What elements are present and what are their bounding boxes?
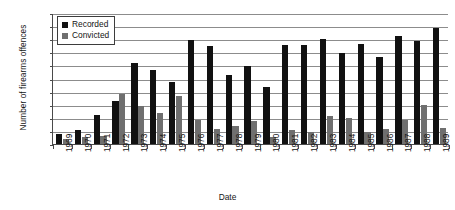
- x-tick-label-1982: 1982: [311, 134, 319, 152]
- bar-group: [147, 14, 166, 144]
- bar-group: [223, 14, 242, 144]
- x-tick-mark: [91, 145, 92, 149]
- x-tick-label-1977: 1977: [217, 134, 225, 152]
- x-tick-mark: [298, 145, 299, 149]
- x-tick-label-1984: 1984: [349, 134, 357, 152]
- x-tick-mark: [185, 145, 186, 149]
- legend-label: Convicted: [72, 31, 109, 39]
- bar-recorded-1987: [395, 36, 401, 144]
- chart-legend: RecordedConvicted: [57, 16, 115, 45]
- bar-group: [204, 14, 223, 144]
- bar-group: [298, 14, 317, 144]
- x-tick-mark: [449, 145, 450, 149]
- x-tick-mark: [392, 145, 393, 149]
- x-tick-mark: [110, 145, 111, 149]
- bar-recorded-1969: [56, 134, 62, 144]
- x-tick-label-1975: 1975: [179, 134, 187, 152]
- bar-group: [260, 14, 279, 144]
- x-tick-mark: [355, 145, 356, 149]
- x-tick-mark: [374, 145, 375, 149]
- bar-recorded-1972: [112, 101, 118, 144]
- x-tick-label-1980: 1980: [273, 134, 281, 152]
- bar-recorded-1985: [358, 44, 364, 144]
- convicted-swatch-icon: [62, 33, 68, 39]
- x-tick-mark: [223, 145, 224, 149]
- x-tick-label-1978: 1978: [236, 134, 244, 152]
- bar-group: [128, 14, 147, 144]
- bar-recorded-1974: [150, 70, 156, 144]
- bar-group: [185, 14, 204, 144]
- bar-group: [166, 14, 185, 144]
- bar-group: [374, 14, 393, 144]
- bar-recorded-1973: [131, 63, 137, 144]
- bar-group: [242, 14, 261, 144]
- x-tick-label-1987: 1987: [405, 134, 413, 152]
- x-tick-label-1974: 1974: [160, 134, 168, 152]
- x-tick-mark: [166, 145, 167, 149]
- bar-recorded-1976: [188, 40, 194, 144]
- x-tick-mark: [128, 145, 129, 149]
- bar-recorded-1986: [376, 57, 382, 144]
- x-tick-label-1972: 1972: [123, 134, 131, 152]
- x-tick-mark: [317, 145, 318, 149]
- x-tick-label-1988: 1988: [424, 134, 432, 152]
- x-tick-label-1985: 1985: [368, 134, 376, 152]
- x-tick-mark: [204, 145, 205, 149]
- legend-entry-convicted: Convicted: [62, 30, 109, 41]
- x-tick-label-1989: 1989: [443, 134, 451, 152]
- bar-recorded-1983: [320, 39, 326, 144]
- bar-group: [430, 14, 449, 144]
- x-tick-label-1971: 1971: [104, 134, 112, 152]
- bar-group: [411, 14, 430, 144]
- bar-recorded-1977: [207, 46, 213, 144]
- bar-recorded-1988: [414, 41, 420, 144]
- legend-label: Recorded: [72, 20, 108, 28]
- x-axis-title: Date: [0, 192, 455, 202]
- bar-recorded-1978: [226, 75, 232, 144]
- x-tick-label-1973: 1973: [141, 134, 149, 152]
- y-axis-title: Number of firearms offences: [19, 3, 28, 153]
- recorded-swatch-icon: [62, 22, 68, 28]
- bar-recorded-1971: [94, 115, 100, 144]
- x-tick-mark: [72, 145, 73, 149]
- bar-group: [336, 14, 355, 144]
- bar-recorded-1979: [244, 66, 250, 144]
- bar-recorded-1984: [339, 53, 345, 144]
- x-tick-label-1979: 1979: [255, 134, 263, 152]
- x-tick-label-1969: 1969: [66, 134, 74, 152]
- x-tick-label-1970: 1970: [85, 134, 93, 152]
- bar-recorded-1975: [169, 82, 175, 144]
- bar-recorded-1981: [282, 45, 288, 144]
- x-tick-label-1986: 1986: [387, 134, 395, 152]
- bar-recorded-1970: [75, 130, 81, 144]
- legend-entry-recorded: Recorded: [62, 19, 109, 30]
- x-tick-label-1976: 1976: [198, 134, 206, 152]
- bar-group: [392, 14, 411, 144]
- x-tick-mark: [430, 145, 431, 149]
- bar-recorded-1980: [263, 87, 269, 144]
- bar-group: [279, 14, 298, 144]
- x-tick-label-1983: 1983: [330, 134, 338, 152]
- x-tick-mark: [53, 145, 54, 149]
- bar-group: [317, 14, 336, 144]
- bar-recorded-1982: [301, 45, 307, 144]
- x-tick-mark: [147, 145, 148, 149]
- x-tick-mark: [279, 145, 280, 149]
- bar-recorded-1989: [433, 28, 439, 144]
- bar-group: [355, 14, 374, 144]
- x-tick-mark: [260, 145, 261, 149]
- x-tick-mark: [336, 145, 337, 149]
- x-tick-label-1981: 1981: [292, 134, 300, 152]
- x-tick-mark: [411, 145, 412, 149]
- bar-chart: Number of firearms offences 010203040506…: [0, 0, 455, 210]
- x-tick-mark: [242, 145, 243, 149]
